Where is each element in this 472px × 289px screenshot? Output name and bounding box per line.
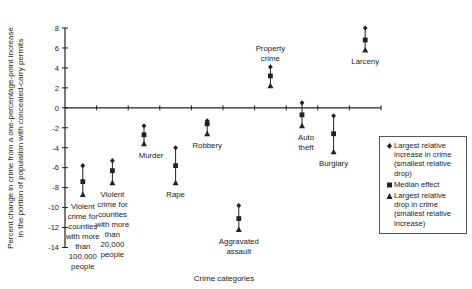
svg-text:Rape: Rape [166,190,185,199]
square-marker-icon [386,181,393,189]
svg-text:counties: counties [98,210,127,219]
svg-text:20,000: 20,000 [100,240,125,249]
svg-text:crime: crime [261,54,280,63]
legend-item-largest-drop: Largest relative drop in crime (smallest… [386,191,463,228]
category-range-0 [80,163,86,197]
svg-text:Auto: Auto [298,133,315,142]
legend-label: Largest relative increase in crime (smal… [394,141,463,178]
svg-text:than: than [105,230,120,239]
diamond-marker-icon [386,142,393,150]
diamond-marker [110,158,115,163]
category-range-3 [173,145,179,185]
y-tick-label: 8 [55,24,59,33]
triangle-marker [267,83,273,89]
legend-item-median: Median effect [386,180,463,189]
y-tick-label: 4 [55,64,59,73]
svg-text:with more: with more [65,232,100,241]
square-marker [236,216,241,221]
svg-text:Murder: Murder [139,151,164,160]
x-axis [65,105,381,110]
square-marker [331,131,336,136]
y-tick-label: -6 [52,163,59,172]
y-axis-label-line: Percent change in crime from a one-perce… [6,27,15,249]
category-label: Aggravatedassault [219,237,259,256]
svg-text:Violent: Violent [71,202,96,211]
square-marker [80,179,85,184]
svg-text:Violent: Violent [101,190,126,199]
y-tick-label: -2 [52,124,59,133]
legend-item-largest-increase: Largest relative increase in crime (smal… [386,141,463,178]
svg-text:theft: theft [298,143,314,152]
category-range-1 [109,158,115,185]
category-label: Autotheft [298,133,315,152]
category-label: Rape [166,190,185,199]
category-label: Murder [139,151,164,160]
category-label: Larceny [351,57,379,66]
diamond-marker [173,145,178,150]
category-range-4 [204,118,210,136]
square-marker [110,168,115,173]
diamond-marker [363,25,368,30]
legend-label: Largest relative drop in crime (smallest… [394,191,463,228]
svg-text:than: than [75,242,90,251]
square-marker [268,73,273,78]
svg-text:people: people [71,262,94,271]
svg-text:100,000: 100,000 [69,252,98,261]
category-range-9 [362,25,368,52]
category-range-7 [299,100,305,128]
square-marker [173,163,178,168]
y-tick-label: 0 [55,104,59,113]
square-marker [300,112,305,117]
category-label: Robbery [192,141,222,150]
triangle-marker [109,180,115,186]
svg-text:people: people [101,250,124,259]
triangle-marker [173,180,179,186]
category-label: Propertycrime [256,44,286,63]
triangle-marker [204,131,210,137]
triangle-marker [331,149,337,155]
y-axis-label: Percent change in crime from a one-perce… [6,27,25,249]
svg-text:Aggravated: Aggravated [219,237,259,246]
svg-text:Larceny: Larceny [351,57,379,66]
y-tick-label: 6 [55,44,59,53]
y-tick-label: -12 [48,223,59,232]
diamond-marker [80,163,85,168]
svg-text:crime for: crime for [97,200,128,209]
diamond-marker [331,113,336,118]
triangle-marker [141,141,147,147]
legend-label: Median effect [394,180,463,189]
svg-text:Property: Property [256,44,286,53]
diamond-marker [236,203,241,208]
y-tick-label: 2 [55,84,59,93]
y-tick-label: -10 [48,203,59,212]
y-tick-label: -14 [48,243,59,252]
y-axis-label-line: in the portion of population with concea… [16,39,25,237]
square-marker [363,38,368,43]
category-range-6 [267,64,273,88]
square-marker [142,132,147,137]
triangle-marker [299,123,305,128]
category-range-8 [331,113,337,154]
diamond-marker [300,100,305,105]
svg-text:crime for: crime for [68,212,99,221]
category-range-5 [236,203,242,232]
svg-text:Robbery: Robbery [192,141,222,150]
diamond-marker [268,64,273,69]
svg-text:with more: with more [95,220,130,229]
triangle-marker-icon [386,192,393,200]
triangle-marker [80,192,86,198]
legend: Largest relative increase in crime (smal… [379,136,467,234]
triangle-marker [362,47,368,53]
svg-text:Burglary: Burglary [319,159,348,168]
y-tick-label: -4 [52,144,59,153]
category-label: Violentcrime forcountieswith morethan20,… [95,190,130,259]
category-label: Burglary [319,159,348,168]
diamond-marker [142,123,147,128]
y-tick-label: -8 [52,183,59,192]
triangle-marker [236,227,242,233]
square-marker [205,121,210,126]
svg-text:counties: counties [68,222,97,231]
y-axis: 86420-2-4-6-8-10-12-14 [48,24,68,253]
category-labels: Violentcrime forcountieswith morethan100… [65,44,379,271]
svg-text:assault: assault [226,247,252,256]
